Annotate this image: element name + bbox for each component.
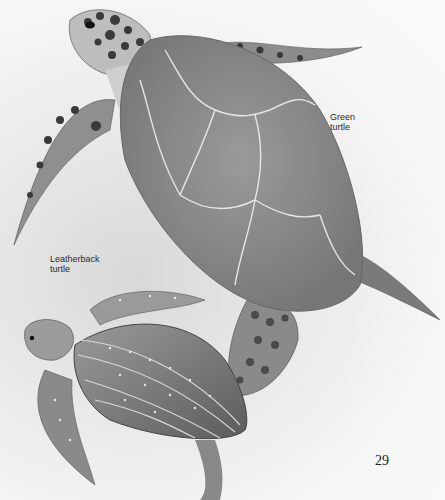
book-page: Green turtle Leatherback turtle 29: [0, 0, 445, 500]
leatherback-top-flipper: [90, 291, 205, 325]
leatherback-rear-flipper: [195, 440, 222, 500]
leatherback-turtle-label-line2: turtle: [50, 264, 100, 274]
leatherback-turtle-label: Leatherback turtle: [50, 254, 100, 274]
green-turtle: [14, 10, 440, 396]
leatherback-turtle: [25, 291, 247, 500]
green-turtle-label-line2: turtle: [330, 122, 355, 132]
leatherback-turtle-label-line1: Leatherback: [50, 254, 100, 264]
green-turtle-label-line1: Green: [330, 112, 355, 122]
green-turtle-left-flipper: [14, 100, 115, 245]
green-turtle-shell: [120, 36, 362, 311]
turtles-illustration: [0, 0, 445, 500]
green-turtle-rear-flipper: [355, 255, 440, 320]
green-turtle-label: Green turtle: [330, 112, 355, 132]
page-number: 29: [375, 453, 389, 469]
